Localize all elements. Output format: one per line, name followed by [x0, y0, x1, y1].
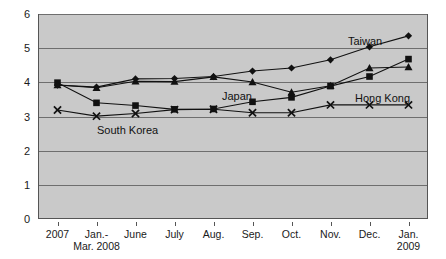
x-tick-label: 2007: [46, 229, 69, 241]
x-tick-label: Jan.- Mar. 2008: [73, 229, 120, 252]
x-tick-label: June: [124, 229, 147, 241]
gridline-3: [39, 117, 427, 118]
x-tick: [136, 222, 137, 226]
x-tick: [253, 222, 254, 226]
gridline-4: [39, 82, 427, 83]
gridline-2: [39, 151, 427, 152]
y-axis: 0123456: [0, 14, 34, 219]
x-tick: [370, 222, 371, 226]
gridline-6: [39, 14, 427, 15]
x-tick: [214, 222, 215, 226]
y-tick-label: 1: [24, 180, 30, 191]
x-axis: 2007Jan.- Mar. 2008JuneJulyAug.Sep.Oct.N…: [38, 222, 428, 258]
x-tick: [175, 222, 176, 226]
gridline-0: [39, 219, 427, 220]
x-tick: [58, 222, 59, 226]
x-tick-label: Nov.: [320, 229, 341, 241]
series-label-japan: Japan: [222, 90, 252, 102]
y-tick-label: 3: [24, 112, 30, 123]
x-tick-label: Oct.: [282, 229, 301, 241]
x-tick-label: Aug.: [203, 229, 225, 241]
chart-container: 0123456 TaiwanJapanHong KongSouth Korea …: [0, 0, 446, 259]
x-tick-label: Jan. 2009: [397, 229, 420, 252]
series-label-hong-kong: Hong Kong: [355, 92, 410, 104]
y-tick-label: 0: [24, 214, 30, 225]
y-tick-label: 5: [24, 43, 30, 54]
series-label-taiwan: Taiwan: [348, 35, 382, 47]
y-tick-label: 4: [24, 77, 30, 88]
x-tick: [292, 222, 293, 226]
y-tick-label: 2: [24, 146, 30, 157]
x-tick-label: Dec.: [359, 229, 381, 241]
x-tick: [409, 222, 410, 226]
x-tick: [97, 222, 98, 226]
x-tick: [331, 222, 332, 226]
x-tick-label: Sep.: [242, 229, 264, 241]
y-tick-label: 6: [24, 9, 30, 20]
gridline-1: [39, 185, 427, 186]
x-tick-label: July: [165, 229, 184, 241]
series-label-south-korea: South Korea: [97, 124, 158, 136]
gridline-5: [39, 48, 427, 49]
